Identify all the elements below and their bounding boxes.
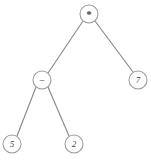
node-label-root: * [86,8,92,20]
edge-minus-to-five [17,87,36,136]
node-seven: 7 [129,71,147,89]
node-two: 2 [65,135,83,153]
node-label-five: 5 [10,139,15,149]
edge-root-to-seven [95,21,133,72]
tree-canvas: * − 7 5 2 [0,0,151,160]
edge-minus-to-two [48,87,69,136]
node-minus: − [33,71,51,89]
node-label-minus: − [39,75,45,86]
node-label-two: 2 [72,139,77,149]
edge-root-to-minus [48,21,83,73]
node-label-seven: 7 [136,75,141,85]
node-root-multiply: * [80,5,98,23]
node-five: 5 [3,135,21,153]
expression-tree-diagram: * − 7 5 2 [0,0,151,160]
